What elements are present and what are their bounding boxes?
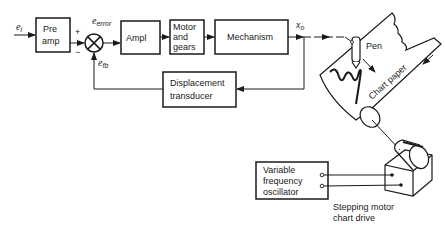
feedback-signal-label: efb [98,57,108,69]
stepping-motor-label-1: Stepping motor [333,202,394,212]
pen-label: Pen [366,41,382,51]
chart-paper [320,13,441,131]
oscillator-label-1: Variable [263,165,295,175]
transducer-label-1: Displacement [170,78,225,88]
stepping-motor-label-2: chart drive [333,213,375,223]
ampl-label: Ampl [126,33,147,43]
motor-label-2: and [173,32,188,42]
summing-junction [85,34,103,52]
preamp-label-2: amp [42,36,60,46]
plus-sign: + [75,27,80,37]
error-signal-label: eerror [92,15,112,27]
oscillator-label-3: oscillator [263,187,299,197]
terminal-2 [320,184,324,188]
preamp-label-1: Pre [43,24,57,34]
output-signal-label: xo [295,19,304,31]
minus-sign: − [75,47,80,57]
motor-label-1: Motor [173,22,196,32]
stepping-motor [385,140,432,196]
motor-label-3: gears [173,42,196,52]
input-signal-label: ei [16,21,22,33]
feedback-line-to-sum [94,53,163,89]
mechanism-label: Mechanism [227,32,273,42]
transducer-label-2: transducer [170,91,213,101]
servo-recorder-diagram: ei Pre amp + − eerror Ampl Motor and gea… [0,0,445,227]
terminal-1 [320,173,324,177]
oscillator-label-2: frequency [263,176,303,186]
